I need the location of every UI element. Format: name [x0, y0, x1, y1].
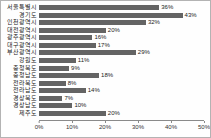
category-label: 전라북도 — [3, 80, 39, 87]
bar-track: 8% — [39, 81, 206, 86]
bar-row: 인천광역시32% — [3, 19, 206, 26]
value-label: 36% — [161, 4, 173, 11]
category-label: 경기도 — [3, 12, 39, 19]
bar-track: 18% — [39, 73, 206, 78]
x-axis-tick: 50% — [198, 121, 210, 130]
bar-row: 서울특별시36% — [3, 4, 206, 11]
bar-track: 20% — [39, 111, 206, 116]
category-label: 서울특별시 — [3, 4, 39, 11]
category-label: 경상북도 — [3, 95, 39, 102]
value-label: 14% — [88, 87, 100, 94]
bar — [39, 111, 106, 116]
x-axis-tick: 10% — [66, 121, 78, 130]
bar-row: 충청북도9% — [3, 65, 206, 72]
bar-track: 16% — [39, 35, 206, 40]
tick-label: 0% — [35, 124, 44, 130]
value-label: 17% — [98, 42, 110, 49]
value-label: 10% — [74, 102, 86, 109]
bar-row: 부산광역시29% — [3, 49, 206, 56]
bar-track: 9% — [39, 66, 206, 71]
x-axis-tick: 40% — [165, 121, 177, 130]
tick-mark — [170, 121, 171, 123]
value-label: 11% — [78, 57, 90, 64]
bar-track: 29% — [39, 50, 206, 55]
bar-row: 대전광역시20% — [3, 27, 206, 34]
category-label: 대구광역시 — [3, 42, 39, 49]
bar-track: 17% — [39, 43, 206, 48]
value-label: 43% — [185, 12, 197, 19]
bar-row: 경상북도7% — [3, 95, 206, 102]
bar-track: 32% — [39, 20, 206, 25]
bar — [39, 50, 136, 55]
bar — [39, 5, 159, 10]
bar-row: 전라북도8% — [3, 80, 206, 87]
bar-track: 20% — [39, 28, 206, 33]
bar-row: 충청남도18% — [3, 72, 206, 79]
bar-row: 광주광역시16% — [3, 34, 206, 41]
category-label: 인천광역시 — [3, 19, 39, 26]
tick-label: 30% — [132, 124, 144, 130]
value-label: 7% — [64, 95, 73, 102]
bar — [39, 58, 76, 63]
bar — [39, 81, 66, 86]
bar-track: 10% — [39, 103, 206, 108]
category-label: 전라남도 — [3, 87, 39, 94]
x-axis-tick: 0% — [35, 121, 44, 130]
tick-mark — [38, 121, 39, 123]
tick-mark — [71, 121, 72, 123]
bar-row: 경상남도10% — [3, 102, 206, 109]
tick-mark — [203, 121, 204, 123]
bar — [39, 88, 86, 93]
horizontal-bar-chart: 서울특별시36%경기도43%인천광역시32%대전광역시20%광주광역시16%대구… — [0, 0, 211, 138]
value-label: 18% — [101, 72, 113, 79]
bar-row: 제주도20% — [3, 110, 206, 117]
value-label: 29% — [138, 49, 150, 56]
bar-track: 14% — [39, 88, 206, 93]
bar-track: 36% — [39, 5, 206, 10]
x-axis: 0%10%20%30%40%50% — [39, 120, 204, 136]
bar — [39, 13, 183, 18]
tick-label: 20% — [99, 124, 111, 130]
category-label: 충청남도 — [3, 72, 39, 79]
bar — [39, 73, 99, 78]
value-label: 20% — [108, 110, 120, 117]
x-axis-tick: 20% — [99, 121, 111, 130]
value-label: 20% — [108, 27, 120, 34]
bar — [39, 28, 106, 33]
bar-rows: 서울특별시36%경기도43%인천광역시32%대전광역시20%광주광역시16%대구… — [3, 4, 206, 117]
bar-row: 전라남도14% — [3, 87, 206, 94]
category-label: 광주광역시 — [3, 34, 39, 41]
tick-label: 40% — [165, 124, 177, 130]
bar — [39, 66, 69, 71]
category-label: 충청북도 — [3, 65, 39, 72]
category-label: 경상남도 — [3, 102, 39, 109]
bar-row: 대구광역시17% — [3, 42, 206, 49]
category-label: 제주도 — [3, 110, 39, 117]
value-label: 8% — [68, 80, 77, 87]
category-label: 부산광역시 — [3, 49, 39, 56]
bar — [39, 96, 62, 101]
value-label: 9% — [71, 65, 80, 72]
bar — [39, 43, 96, 48]
bar — [39, 20, 146, 25]
bar — [39, 35, 92, 40]
bar-track: 11% — [39, 58, 206, 63]
bar-row: 경기도43% — [3, 12, 206, 19]
value-label: 32% — [148, 19, 160, 26]
tick-mark — [137, 121, 138, 123]
tick-label: 50% — [198, 124, 210, 130]
tick-label: 10% — [66, 124, 78, 130]
category-label: 대전광역시 — [3, 27, 39, 34]
tick-mark — [104, 121, 105, 123]
bar-row: 강원도11% — [3, 57, 206, 64]
bar-track: 43% — [39, 13, 206, 18]
bar-track: 7% — [39, 96, 206, 101]
category-label: 강원도 — [3, 57, 39, 64]
x-axis-tick: 30% — [132, 121, 144, 130]
bar — [39, 103, 72, 108]
value-label: 16% — [94, 34, 106, 41]
